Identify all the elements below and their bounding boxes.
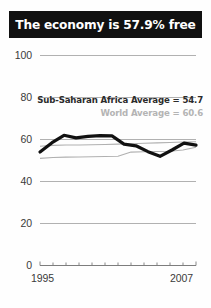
x-axis-label-end: 2007 [170,272,193,284]
y-axis-label-20: 20 [2,217,32,229]
y-axis-label-40: 40 [2,175,32,187]
y-axis-label-60: 60 [2,133,32,145]
series-group [40,135,196,158]
y-axis-label-0: 0 [2,259,32,271]
y-axis-label-100: 100 [2,49,32,61]
chart-figure: The economy is 57.9% free [0,0,211,308]
series-line-country [40,135,196,156]
plot-area: 100 80 60 40 20 0 1995 2007 Sub-Saharan … [0,0,211,308]
x-axis-label-start: 1995 [31,272,54,284]
x-axis-ticks [40,262,196,266]
legend-world-average: World Average = 60.6 [0,108,203,118]
series-line-world-average [40,142,196,146]
legend-sub-saharan-africa-average: Sub-Saharan Africa Average = 54.7 [0,95,203,105]
